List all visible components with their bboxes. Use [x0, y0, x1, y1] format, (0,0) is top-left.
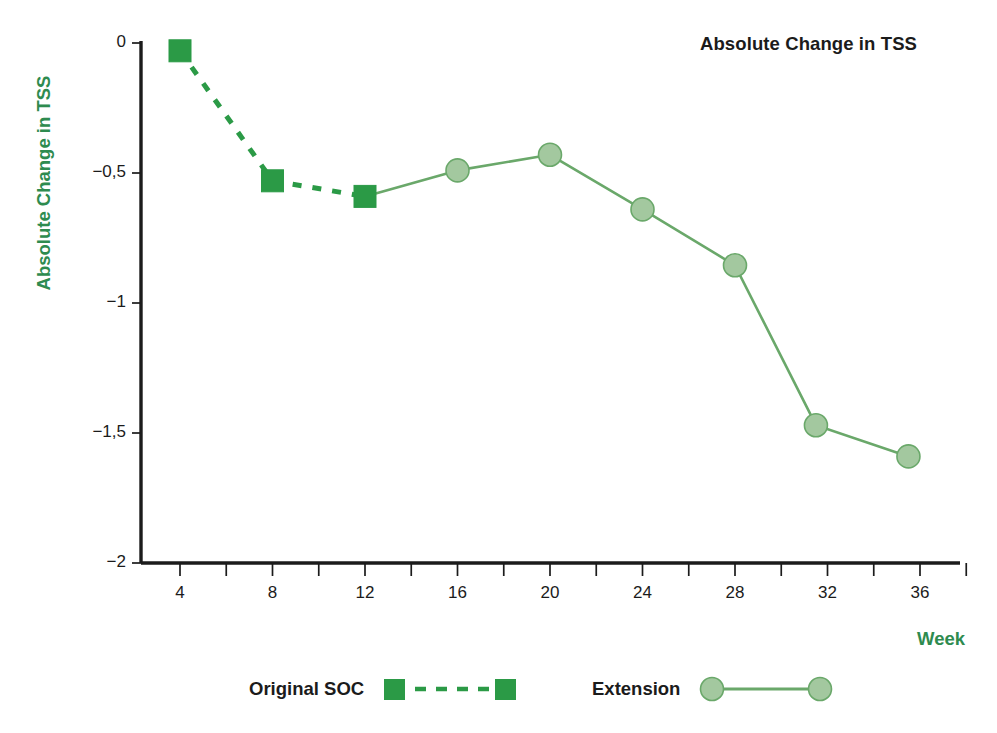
y-axis-tick-label: −2 [66, 552, 126, 572]
data-point-marker-original-soc[interactable] [354, 185, 376, 207]
x-axis-tick-label: 24 [620, 583, 666, 603]
data-point-marker-extension[interactable] [631, 198, 654, 221]
data-point-marker-extension[interactable] [897, 445, 920, 468]
legend-label-original-soc: Original SOC [249, 678, 364, 700]
x-axis-tick-label: 16 [435, 583, 481, 603]
x-axis-tick-label: 8 [250, 583, 296, 603]
chart-legend: Original SOC Extension [0, 672, 997, 718]
series-line-extension [458, 155, 909, 457]
legend-label-extension: Extension [592, 678, 680, 700]
data-point-marker-extension[interactable] [539, 143, 562, 166]
y-axis-tick-label: −1 [66, 292, 126, 312]
legend-swatch-extension-solid-circle-icon [698, 675, 834, 703]
x-axis-tick-label: 12 [342, 583, 388, 603]
plot-area [0, 0, 997, 733]
series-connector-line [365, 170, 458, 196]
y-axis-tick-label: 0 [66, 32, 126, 52]
x-axis-tick-label: 36 [897, 583, 943, 603]
x-axis-tick-label: 32 [805, 583, 851, 603]
x-axis-tick-label: 28 [712, 583, 758, 603]
legend-swatch-original-soc-dashed-square-icon [382, 676, 518, 702]
data-point-marker-extension[interactable] [446, 159, 469, 182]
data-point-marker-original-soc[interactable] [169, 40, 191, 62]
data-point-marker-extension[interactable] [804, 414, 827, 437]
x-axis-tick-label: 4 [157, 583, 203, 603]
data-point-marker-extension[interactable] [724, 254, 747, 277]
data-point-marker-original-soc[interactable] [262, 170, 284, 192]
y-axis-tick-label: −1,5 [66, 422, 126, 442]
x-axis-tick-label: 20 [527, 583, 573, 603]
legend-item-extension: Extension [592, 672, 834, 706]
chart-figure: Absolute Change in TSS Absolute Change i… [0, 0, 997, 733]
y-axis-tick-label: −0,5 [66, 162, 126, 182]
legend-item-original-soc: Original SOC [249, 672, 518, 706]
